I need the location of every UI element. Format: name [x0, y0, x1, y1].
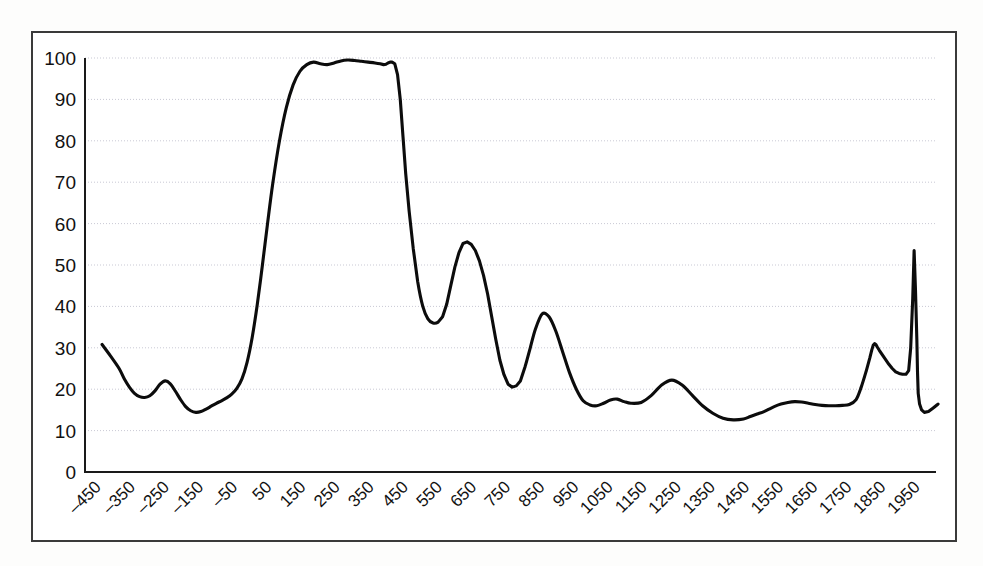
y-tick-label: 50	[55, 255, 76, 276]
x-tick-label: –450	[65, 477, 105, 517]
x-tick-label: 450	[378, 477, 411, 510]
x-tick-label: 1850	[849, 477, 889, 517]
y-tick-label: 30	[55, 338, 76, 359]
y-tick-label: 40	[55, 296, 76, 317]
x-tick-label: 350	[344, 477, 377, 510]
y-tick-label: 90	[55, 89, 76, 110]
x-tick-label: –150	[167, 477, 207, 517]
x-tick-label: 50	[249, 477, 276, 504]
y-tick-label: 0	[65, 462, 76, 483]
x-tick-label: 1050	[577, 477, 617, 517]
gridlines-group	[85, 58, 936, 431]
chart-outer-frame: 0102030405060708090100 –450–350–250–150–…	[31, 31, 957, 542]
x-tick-label: 650	[447, 477, 480, 510]
figure-canvas: 0102030405060708090100 –450–350–250–150–…	[0, 0, 983, 566]
x-tick-label: –250	[133, 477, 173, 517]
data-series-line[interactable]	[102, 60, 938, 420]
x-tick-label: 150	[276, 477, 309, 510]
y-tick-label: 80	[55, 131, 76, 152]
x-tick-label: 1150	[612, 477, 651, 516]
x-tick-label: 850	[515, 477, 548, 510]
x-tick-label: 550	[413, 477, 446, 510]
y-axis-tick-labels: 0102030405060708090100	[44, 48, 76, 483]
y-tick-label: 10	[55, 421, 76, 442]
x-tick-label: 1950	[884, 477, 924, 517]
x-tick-label: 1350	[679, 477, 719, 517]
y-tick-label: 20	[55, 379, 76, 400]
x-tick-label: 1550	[747, 477, 787, 517]
line-chart[interactable]: 0102030405060708090100 –450–350–250–150–…	[33, 33, 955, 540]
y-tick-label: 60	[55, 214, 76, 235]
x-tick-label: –50	[208, 477, 241, 510]
x-tick-label: 1750	[815, 477, 855, 517]
y-tick-label: 70	[55, 172, 76, 193]
x-tick-label: 1650	[781, 477, 821, 517]
x-tick-label: 1450	[713, 477, 753, 517]
y-tick-label: 100	[44, 48, 76, 69]
x-tick-label: 250	[310, 477, 343, 510]
x-tick-label: 1250	[645, 477, 685, 517]
x-tick-label: 750	[481, 477, 514, 510]
x-tick-label: –350	[99, 477, 139, 517]
x-axis-tick-labels: –450–350–250–150–50501502503504505506507…	[65, 477, 924, 517]
